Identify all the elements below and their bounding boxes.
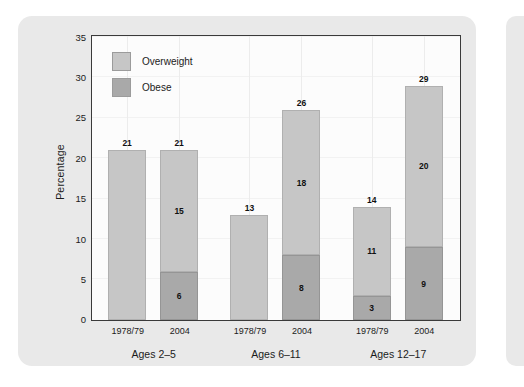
group-label: Ages 6–11: [251, 348, 300, 360]
bar-value-obese: 3: [353, 303, 391, 313]
y-tick-0: 0: [62, 314, 86, 325]
bar-total-label: 21: [108, 138, 146, 148]
y-tick-30: 30: [62, 72, 86, 83]
y-tick-25: 25: [62, 112, 86, 123]
bar-value-overweight: 15: [160, 206, 198, 216]
y-axis-tick-labels: 05101520253035: [62, 16, 86, 366]
bar-segment-overweight[interactable]: [108, 150, 146, 320]
bar-2004-ages-2–5[interactable]: 61521: [160, 150, 198, 320]
adjacent-panel-edge: [506, 16, 524, 366]
group-label: Ages 12–17: [370, 348, 426, 360]
x-tick-label: 1978/79: [234, 326, 267, 336]
bars-layer: 216152113818263111492029: [92, 36, 460, 320]
y-tick-20: 20: [62, 152, 86, 163]
bar-1978-79-ages-12–17[interactable]: 31114: [353, 207, 391, 320]
y-tick-10: 10: [62, 233, 86, 244]
bar-value-obese: 6: [160, 291, 198, 301]
x-tick-label: 2004: [170, 326, 190, 336]
y-tick-5: 5: [62, 274, 86, 285]
y-tick-35: 35: [62, 31, 86, 42]
bar-value-overweight: 20: [405, 161, 443, 171]
bar-total-label: 14: [353, 195, 391, 205]
bar-segment-overweight[interactable]: [230, 215, 268, 320]
bar-total-label: 21: [160, 138, 198, 148]
bar-value-overweight: 11: [353, 246, 391, 256]
group-label: Ages 2–5: [132, 348, 176, 360]
bar-value-obese: 9: [405, 279, 443, 289]
bar-1978-79-ages-6–11[interactable]: 13: [230, 215, 268, 320]
bar-2004-ages-6–11[interactable]: 81826: [282, 110, 320, 320]
x-tick-label: 1978/79: [356, 326, 389, 336]
x-tick-label: 1978/79: [111, 326, 144, 336]
x-axis-tick-labels: 1978/7920041978/7920041978/792004: [91, 326, 461, 342]
bar-1978-79-ages-2–5[interactable]: 21: [108, 150, 146, 320]
bar-value-overweight: 18: [282, 178, 320, 188]
bar-total-label: 29: [405, 74, 443, 84]
bar-2004-ages-12–17[interactable]: 92029: [405, 86, 443, 320]
plot-area: Overweight Obese 21615211381826311149202…: [91, 35, 461, 321]
x-tick-label: 2004: [414, 326, 434, 336]
x-axis-group-labels: Ages 2–5Ages 6–11Ages 12–17: [91, 348, 461, 366]
bar-total-label: 26: [282, 98, 320, 108]
y-tick-15: 15: [62, 193, 86, 204]
bar-total-label: 13: [230, 203, 268, 213]
x-tick-label: 2004: [292, 326, 312, 336]
chart-panel: Percentage 05101520253035 Overweight Obe…: [18, 16, 476, 366]
bar-value-obese: 8: [282, 283, 320, 293]
